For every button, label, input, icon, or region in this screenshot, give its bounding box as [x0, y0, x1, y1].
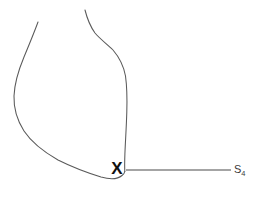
- figure-canvas: X S4: [0, 0, 259, 197]
- region-label: S4: [234, 163, 246, 178]
- contour-diagram: X S4: [0, 0, 259, 197]
- region-label-base: S: [234, 163, 241, 175]
- x-marker: X: [111, 159, 123, 178]
- region-label-subscript: 4: [241, 168, 245, 177]
- contour-right-branch-path: [85, 10, 127, 172]
